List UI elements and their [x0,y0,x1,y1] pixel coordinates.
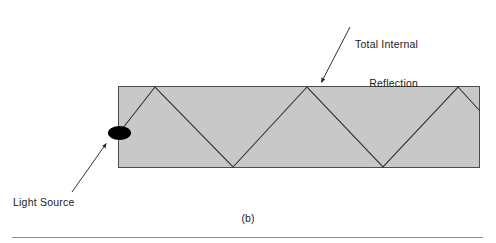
total-internal-reflection-label: Total Internal Reflection [355,12,418,116]
total-internal-reflection-arrow [321,27,350,82]
figure-caption: (b) [0,212,496,224]
light-source-arrow [72,143,106,192]
light-source-ellipse [108,126,131,140]
optical-slab [119,87,480,168]
tir-label-line-1: Total Internal [355,38,418,51]
light-source-label: Light Source [13,196,74,209]
figure-container: Total Internal Reflection Light Source (… [0,0,496,243]
tir-label-line-2: Reflection [355,77,418,90]
